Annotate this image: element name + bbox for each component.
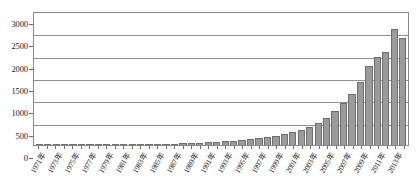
x-axis-label-slot xyxy=(400,150,409,193)
x-axis-label-slot: 1979年 xyxy=(102,150,111,193)
x-axis-label-slot: 2011年 xyxy=(374,150,383,193)
x-axis-label-slot: 1991年 xyxy=(204,150,213,193)
x-axis-label-slot: 1981年 xyxy=(119,150,128,193)
y-axis-tick-label: 0 xyxy=(24,153,28,163)
bar xyxy=(272,136,279,145)
x-axis-label-slot: 1977年 xyxy=(85,150,94,193)
y-axis-tick-label: 1500 xyxy=(11,86,28,96)
x-axis-label-slot: 2001年 xyxy=(289,150,298,193)
bar xyxy=(95,144,102,145)
bar xyxy=(188,143,195,145)
bar xyxy=(306,127,313,145)
x-axis-label-slot: 1985年 xyxy=(153,150,162,193)
bar xyxy=(129,144,136,145)
y-axis-tick-label: 500 xyxy=(16,131,28,141)
x-axis-label-slot: 1987年 xyxy=(170,150,179,193)
bar xyxy=(44,144,51,145)
bar xyxy=(247,139,254,145)
x-axis-label-slot: 2013年 xyxy=(391,150,400,193)
x-axis-label-slot: 1999年 xyxy=(272,150,281,193)
bar xyxy=(374,57,381,145)
bar xyxy=(255,138,262,145)
bar xyxy=(120,144,127,145)
x-axis-label-slot: 1971年 xyxy=(34,150,43,193)
x-axis-label-slot: 1997年 xyxy=(255,150,264,193)
bar xyxy=(112,144,119,145)
plot-area xyxy=(33,12,409,146)
bar xyxy=(315,123,322,145)
bar xyxy=(230,141,237,145)
bar xyxy=(162,144,169,145)
bar xyxy=(281,134,288,145)
bar xyxy=(171,144,178,145)
x-axis-label-slot: 2003年 xyxy=(306,150,315,193)
bar xyxy=(340,103,347,145)
bar xyxy=(213,142,220,145)
bar xyxy=(365,66,372,145)
bar-chart: 300025002000150010005000 1971年1973年1975年… xyxy=(0,0,419,193)
bar xyxy=(69,144,76,145)
y-axis-tick-label: 3000 xyxy=(11,19,28,29)
x-axis-label-slot: 1989年 xyxy=(187,150,196,193)
y-axis-tick-label: 1000 xyxy=(11,108,28,118)
bar xyxy=(382,52,389,145)
y-axis: 300025002000150010005000 xyxy=(0,12,33,146)
bar xyxy=(36,144,43,145)
x-axis-label-slot: 1973年 xyxy=(51,150,60,193)
bar xyxy=(61,144,68,145)
bar xyxy=(298,130,305,145)
x-axis-label-slot: 1995年 xyxy=(238,150,247,193)
bar xyxy=(205,142,212,145)
bar xyxy=(323,118,330,145)
bar xyxy=(399,38,406,145)
bar xyxy=(331,111,338,145)
bar xyxy=(154,144,161,145)
bar xyxy=(145,144,152,145)
bar xyxy=(222,141,229,145)
bar xyxy=(78,144,85,145)
bar xyxy=(357,82,364,145)
x-axis-label-slot: 1993年 xyxy=(221,150,230,193)
x-axis-label-slot: 2009年 xyxy=(357,150,366,193)
bar xyxy=(137,144,144,145)
bars-container xyxy=(34,13,408,145)
bar xyxy=(179,143,186,145)
x-axis-label-slot: 1975年 xyxy=(68,150,77,193)
bar xyxy=(196,143,203,145)
y-axis-tick-label: 2000 xyxy=(11,64,28,74)
x-axis-labels: 1971年1973年1975年1977年1979年1981年1983年1985年… xyxy=(33,150,409,193)
bar xyxy=(103,144,110,145)
bar xyxy=(264,137,271,145)
x-axis-label-slot: 1983年 xyxy=(136,150,145,193)
bar xyxy=(238,140,245,145)
bar xyxy=(86,144,93,145)
bar xyxy=(391,29,398,145)
bar xyxy=(289,132,296,145)
x-axis-label-slot: 2007年 xyxy=(340,150,349,193)
y-axis-tick-label: 2500 xyxy=(11,41,28,51)
x-axis-label-slot: 2005年 xyxy=(323,150,332,193)
bar xyxy=(348,94,355,145)
bar xyxy=(53,144,60,145)
